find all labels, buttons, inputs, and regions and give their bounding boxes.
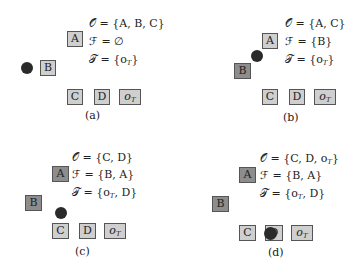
node-d: D bbox=[94, 89, 110, 105]
node-d: D bbox=[79, 223, 96, 239]
node-a: A bbox=[262, 33, 278, 49]
caption-d: (d) bbox=[268, 246, 284, 259]
target-set-equation: 𝒯 = {oT} bbox=[89, 51, 139, 72]
agent-dot bbox=[264, 227, 277, 240]
target-set-equation: 𝒯 = {oT} bbox=[285, 51, 335, 72]
node-d: D bbox=[289, 89, 305, 105]
node-b: B bbox=[212, 196, 229, 212]
node-a: A bbox=[239, 167, 256, 183]
node-target: oT bbox=[314, 89, 336, 105]
failed-set-equation: ℱ = {B} bbox=[285, 33, 332, 51]
caption-b: (b) bbox=[283, 111, 299, 124]
agent-dot bbox=[55, 207, 67, 219]
node-b: B bbox=[234, 63, 251, 79]
node-c: C bbox=[262, 89, 278, 105]
node-c: C bbox=[67, 89, 83, 105]
node-b: B bbox=[25, 195, 42, 211]
node-target: oT bbox=[291, 225, 313, 241]
failed-set-equation: ℱ = ∅ bbox=[89, 33, 124, 51]
open-set-equation: 𝒪 = {A, C} bbox=[285, 15, 346, 33]
caption-a: (a) bbox=[85, 109, 100, 122]
node-target: oT bbox=[104, 223, 126, 239]
agent-dot bbox=[251, 50, 263, 62]
node-b: B bbox=[40, 60, 56, 76]
failed-set-equation: ℱ = {B, A} bbox=[260, 167, 322, 185]
open-set-equation: 𝒪 = {A, B, C} bbox=[89, 15, 165, 33]
caption-c: (c) bbox=[75, 245, 90, 258]
open-set-equation: 𝒪 = {C, D} bbox=[72, 149, 133, 167]
node-target: oT bbox=[119, 89, 141, 105]
agent-dot bbox=[21, 62, 33, 74]
node-a: A bbox=[52, 166, 69, 182]
node-a: A bbox=[67, 31, 83, 47]
node-c: C bbox=[52, 223, 69, 239]
failed-set-equation: ℱ = {B, A} bbox=[72, 166, 134, 184]
target-set-equation: 𝒯 = {oT, D} bbox=[260, 185, 325, 206]
node-c: C bbox=[239, 225, 256, 241]
target-set-equation: 𝒯 = {oT, D} bbox=[72, 184, 137, 205]
